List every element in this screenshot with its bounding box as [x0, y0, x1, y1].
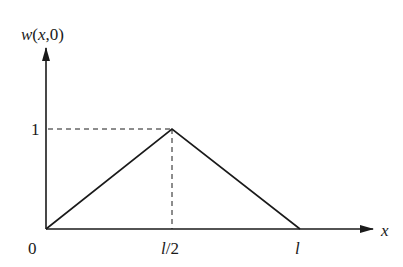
y-tick-label-1: 1 [31, 120, 40, 139]
x-tick-label-l: l [295, 239, 300, 258]
origin-label: 0 [28, 239, 37, 258]
y-axis-label: w(x,0) [21, 25, 64, 44]
x-axis-label: x [380, 221, 389, 240]
x-tick-label-half-l: l/2 [161, 239, 179, 258]
triangle-curve [46, 129, 300, 229]
triangle-initial-displacement-diagram: w(x,0) 1 0 l/2 l x [0, 0, 403, 267]
